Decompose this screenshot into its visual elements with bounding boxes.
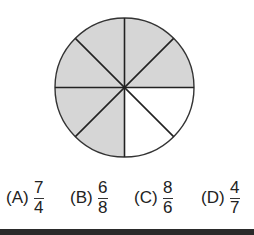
option-d[interactable]: (D) 4 7 — [201, 178, 240, 218]
fraction: 7 4 — [34, 180, 44, 216]
bottom-divider-bar — [0, 229, 254, 235]
denominator: 8 — [98, 200, 107, 216]
denominator: 4 — [34, 200, 43, 216]
fraction: 4 7 — [230, 180, 240, 216]
fraction-circle — [53, 16, 196, 159]
numerator: 4 — [230, 180, 239, 196]
option-label: (B) — [70, 188, 93, 208]
option-c[interactable]: (C) 8 6 — [134, 178, 173, 218]
slice-lines — [55, 18, 194, 157]
numerator: 8 — [163, 180, 172, 196]
answer-options: (A) 7 4 (B) 6 8 (C) 8 6 (D) 4 7 — [0, 178, 254, 218]
denominator: 7 — [230, 200, 239, 216]
option-label: (A) — [6, 188, 29, 208]
option-b[interactable]: (B) 6 8 — [70, 178, 108, 218]
option-a[interactable]: (A) 7 4 — [6, 178, 44, 218]
option-label: (D) — [201, 188, 225, 208]
fraction: 6 8 — [98, 180, 108, 216]
fraction: 8 6 — [163, 180, 173, 216]
option-label: (C) — [134, 188, 158, 208]
numerator: 6 — [98, 180, 107, 196]
denominator: 6 — [163, 200, 172, 216]
numerator: 7 — [34, 180, 43, 196]
